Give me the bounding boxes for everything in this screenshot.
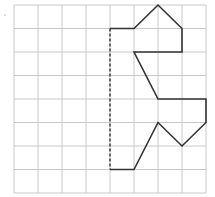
symmetry-grid-diagram: [0, 0, 215, 197]
